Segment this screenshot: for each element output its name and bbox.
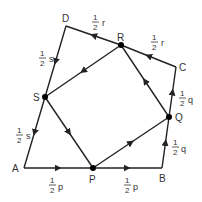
label-P: P bbox=[89, 174, 96, 185]
svg-text:1: 1 bbox=[180, 89, 185, 98]
inner-quadrilateral bbox=[45, 45, 169, 168]
svg-text:p: p bbox=[58, 182, 63, 192]
side-SP bbox=[45, 97, 93, 168]
side-CR bbox=[121, 45, 176, 67]
side-QR bbox=[121, 45, 169, 117]
side-PQ bbox=[93, 117, 169, 168]
svg-text:1: 1 bbox=[93, 13, 98, 22]
svg-text:q: q bbox=[188, 95, 193, 105]
svg-text:1: 1 bbox=[50, 176, 55, 185]
side-label-AP: 1 2 p bbox=[49, 176, 63, 195]
svg-text:r: r bbox=[102, 18, 105, 28]
svg-text:2: 2 bbox=[180, 99, 185, 108]
svg-text:q: q bbox=[181, 144, 186, 154]
svg-text:2: 2 bbox=[40, 59, 45, 68]
point-Q bbox=[166, 114, 172, 120]
point-P bbox=[90, 165, 96, 171]
side-label-PB: 1 2 p bbox=[124, 176, 138, 195]
svg-text:r: r bbox=[161, 38, 164, 48]
side-label-DR: 1 2 r bbox=[92, 13, 105, 32]
svg-text:1: 1 bbox=[17, 126, 22, 135]
svg-text:2: 2 bbox=[50, 186, 55, 195]
side-RS bbox=[45, 45, 121, 97]
label-C: C bbox=[179, 62, 186, 73]
label-D: D bbox=[62, 13, 69, 24]
svg-text:2: 2 bbox=[93, 23, 98, 32]
label-B: B bbox=[159, 173, 166, 184]
side-BQ bbox=[162, 117, 169, 168]
svg-text:s: s bbox=[49, 54, 54, 64]
side-label-BQ: 1 2 q bbox=[172, 138, 186, 157]
label-S: S bbox=[33, 92, 40, 103]
side-label-QC: 1 2 q bbox=[179, 89, 193, 108]
svg-text:p: p bbox=[133, 182, 138, 192]
side-label-RC: 1 2 r bbox=[151, 33, 164, 52]
vector-quadrilateral-diagram: A B C D P Q R S 1 2 p 1 2 p 1 2 q 1 2 q … bbox=[0, 0, 202, 202]
label-A: A bbox=[12, 163, 19, 174]
svg-text:1: 1 bbox=[173, 138, 178, 147]
svg-text:s: s bbox=[26, 131, 31, 141]
label-R: R bbox=[117, 32, 124, 43]
point-S bbox=[42, 94, 48, 100]
svg-text:2: 2 bbox=[125, 186, 130, 195]
svg-text:2: 2 bbox=[152, 43, 157, 52]
svg-text:2: 2 bbox=[17, 136, 22, 145]
svg-text:1: 1 bbox=[152, 33, 157, 42]
side-label-SA: 1 2 s bbox=[16, 126, 31, 145]
label-Q: Q bbox=[175, 112, 183, 123]
svg-text:2: 2 bbox=[173, 148, 178, 157]
svg-text:1: 1 bbox=[125, 176, 130, 185]
side-label-DS: 1 2 s bbox=[39, 49, 54, 68]
side-QC bbox=[169, 67, 176, 117]
svg-text:1: 1 bbox=[40, 49, 45, 58]
